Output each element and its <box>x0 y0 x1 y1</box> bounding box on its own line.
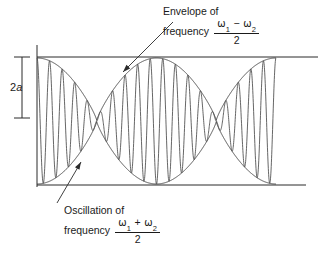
omega-subscript-1: 1 <box>226 25 230 34</box>
amplitude-label: 2a <box>10 81 22 93</box>
envelope-annotation: Envelope of frequency ω1 − ω2 2 <box>163 5 259 44</box>
fraction-operator: + <box>135 216 141 228</box>
oscillation-waveform <box>37 58 276 184</box>
oscillation-frequency-label: frequency <box>64 224 110 236</box>
envelope-fraction-denominator: 2 <box>234 34 240 46</box>
envelope-fraction-numerator: ω1 − ω2 <box>214 18 259 33</box>
omega-symbol: ω <box>144 217 153 228</box>
omega-subscript-2: 2 <box>252 25 256 34</box>
amplitude-symbol: a <box>16 81 22 93</box>
envelope-annotation-line2: frequency ω1 − ω2 2 <box>163 17 259 44</box>
oscillation-annotation-line2: frequency ω1 + ω2 2 <box>64 216 160 243</box>
envelope-curve-upper <box>37 58 276 120</box>
envelope-annotation-line1: Envelope of <box>163 5 259 17</box>
omega-symbol: ω <box>243 18 252 29</box>
omega-subscript-1: 1 <box>127 224 131 233</box>
fraction-operator: − <box>234 17 240 29</box>
beat-waveform-figure: 2a Envelope of frequency ω1 − ω2 2 Oscil… <box>0 0 327 259</box>
oscillation-annotation-line1: Oscillation of <box>64 204 160 216</box>
oscillation-leader-arrow <box>57 162 81 203</box>
envelope-frequency-label: frequency <box>163 25 209 37</box>
omega-subscript-2: 2 <box>153 224 157 233</box>
envelope-fraction: ω1 − ω2 2 <box>214 18 259 45</box>
oscillation-fraction-denominator: 2 <box>135 233 141 245</box>
omega-symbol: ω <box>118 217 127 228</box>
omega-symbol: ω <box>217 18 226 29</box>
oscillation-fraction-numerator: ω1 + ω2 <box>115 217 160 232</box>
envelope-curve-lower <box>37 122 276 184</box>
oscillation-fraction: ω1 + ω2 2 <box>115 217 160 244</box>
oscillation-annotation: Oscillation of frequency ω1 + ω2 2 <box>64 204 160 243</box>
